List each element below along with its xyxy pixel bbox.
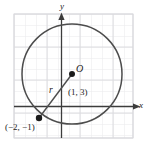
y-axis-label: y	[60, 2, 64, 11]
circle-point-marker	[36, 115, 42, 121]
center-point-marker	[69, 71, 75, 77]
radius-label: r	[49, 86, 53, 96]
circle-point-coordinate-label: (−2, −1)	[5, 123, 35, 132]
center-coordinate-label: (1, 3)	[68, 88, 88, 97]
x-axis-label: x	[139, 101, 143, 110]
circle-coordinate-figure: y x O r (1, 3) (−2, −1)	[0, 0, 152, 151]
center-point-label: O	[76, 64, 83, 74]
